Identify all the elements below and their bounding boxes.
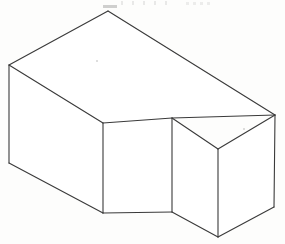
block-line-drawing [0,0,285,244]
notch-front-face [103,118,172,213]
